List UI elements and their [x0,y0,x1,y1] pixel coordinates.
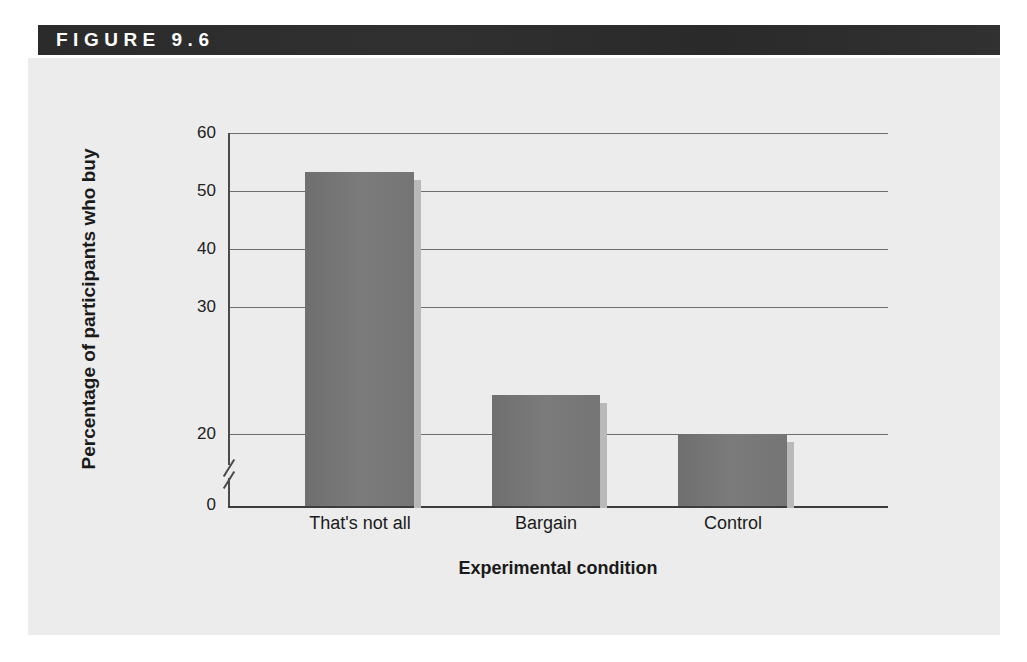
y-tick-label-40: 40 [168,239,216,259]
y-tick-label-20: 20 [168,424,216,444]
y-axis-line-upper [228,133,230,465]
bar-control [678,434,787,506]
y-axis-title: Percentage of participants who buy [78,144,100,474]
x-tick-label-control: Control [648,513,818,534]
bar-shadow-that-s-not-all [414,180,421,508]
y-axis-line-lower [228,478,230,507]
x-tick-label-that-s-not-all: That's not all [275,513,445,534]
figure-panel: Percentage of participants who buy Exper… [28,58,1000,635]
y-tick-label-50: 50 [168,181,216,201]
bar-shadow-control [787,442,794,508]
figure-number-label: FIGURE 9.6 [56,29,214,51]
x-tick-label-bargain: Bargain [461,513,631,534]
bar-bargain [492,395,600,506]
figure-banner: FIGURE 9.6 [38,25,1000,55]
bar-that-s-not-all [305,172,414,506]
y-tick-label-60: 60 [168,123,216,143]
y-tick-label-30: 30 [168,297,216,317]
bar-shadow-bargain [600,403,607,508]
bar-chart: Percentage of participants who buy Exper… [28,58,1000,635]
x-axis-title: Experimental condition [228,558,888,579]
y-tick-label-0: 0 [168,495,216,515]
gridline-60 [228,133,888,134]
